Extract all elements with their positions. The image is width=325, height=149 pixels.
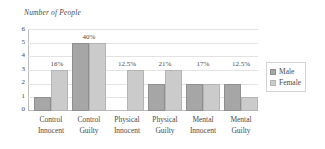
x-category-line1: Control xyxy=(78,115,101,124)
legend-item-male[interactable]: Male xyxy=(270,66,301,77)
x-axis: Control Innocent Control Guilty Physical… xyxy=(28,114,258,146)
bar-female-mental-guilty[interactable] xyxy=(241,97,258,111)
legend-item-female[interactable]: Female xyxy=(270,77,301,88)
y-tick-3: 3 xyxy=(9,66,25,73)
x-category-mental-guilty: Mental Guilty xyxy=(218,114,264,136)
y-tick-2: 2 xyxy=(9,79,25,86)
chart-title: Number of People xyxy=(24,8,81,17)
legend-label-female: Female xyxy=(279,78,301,87)
x-category-line1: Mental xyxy=(230,115,251,124)
bar-male-control-innocent[interactable] xyxy=(34,97,51,111)
x-category-line1: Physical xyxy=(152,115,177,124)
bar-group-mental-guilty: 12.5% xyxy=(224,29,270,111)
chart-screenshot: Number of People 6 5 4 3 2 1 0 16% 40% xyxy=(0,0,325,149)
bar-male-control-guilty[interactable] xyxy=(72,43,89,111)
x-category-line1: Control xyxy=(40,115,63,124)
data-label-control-guilty: 40% xyxy=(66,33,112,41)
bar-female-control-guilty[interactable] xyxy=(89,43,106,111)
bar-female-physical-innocent[interactable] xyxy=(127,70,144,111)
x-category-line1: Mental xyxy=(192,115,213,124)
plot-area: 16% 40% 12.5% 21% 17% xyxy=(28,29,258,111)
bar-male-mental-innocent[interactable] xyxy=(186,84,203,111)
y-tick-1: 1 xyxy=(9,93,25,100)
y-axis: 6 5 4 3 2 1 0 xyxy=(6,29,25,111)
y-tick-5: 5 xyxy=(9,39,25,46)
bar-female-control-innocent[interactable] xyxy=(51,70,68,111)
legend-swatch-male-icon xyxy=(270,69,276,75)
bar-male-physical-guilty[interactable] xyxy=(148,84,165,111)
x-category-line1: Physical xyxy=(114,115,139,124)
legend-label-male: Male xyxy=(279,67,294,76)
data-label-mental-guilty: 12.5% xyxy=(218,60,264,68)
y-tick-6: 6 xyxy=(9,26,25,33)
chart-legend: Male Female xyxy=(266,62,306,92)
bar-male-mental-guilty[interactable] xyxy=(224,84,241,111)
y-tick-0: 0 xyxy=(9,106,25,113)
x-category-line2: Guilty xyxy=(218,125,264,136)
bar-female-mental-innocent[interactable] xyxy=(203,84,220,111)
legend-swatch-female-icon xyxy=(270,80,276,86)
y-tick-4: 4 xyxy=(9,52,25,59)
bar-female-physical-guilty[interactable] xyxy=(165,70,182,111)
